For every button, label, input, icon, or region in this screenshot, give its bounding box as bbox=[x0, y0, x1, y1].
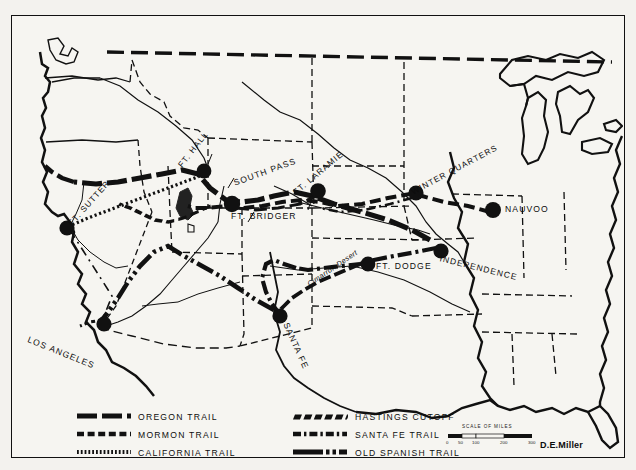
trail-sutter-la bbox=[70, 230, 112, 316]
legend-label-oregon-trail: OREGON TRAIL bbox=[138, 412, 218, 422]
legend-swatch-hastings-cutoff bbox=[292, 412, 348, 422]
leader-ft-hall bbox=[208, 154, 212, 164]
legend-swatch-santa-fe-trail bbox=[292, 430, 348, 438]
legend-swatch-mormon-trail bbox=[76, 430, 132, 438]
dot-santa-fe bbox=[272, 308, 287, 323]
dot-ft-bridger bbox=[224, 196, 240, 212]
map-page: FT. HALL SOUTH PASS FT. LARAMIE FT. BRID… bbox=[0, 0, 636, 470]
scale-tick-50: 50 bbox=[458, 440, 463, 445]
dot-los-angeles bbox=[96, 316, 111, 331]
legend-label-mormon-trail: MORMON TRAIL bbox=[138, 430, 220, 440]
scale-tick-100: 100 bbox=[472, 440, 479, 445]
dot-ft-dodge bbox=[361, 257, 376, 272]
label-ft-dodge: FT. DODGE bbox=[376, 261, 432, 271]
trail-oregon-west bbox=[45, 166, 74, 182]
trail-old-spanish bbox=[102, 246, 274, 320]
legend-label-santa-fe-trail: SANTA FE TRAIL bbox=[355, 430, 440, 440]
map-frame: FT. HALL SOUTH PASS FT. LARAMIE FT. BRID… bbox=[11, 15, 625, 458]
dot-ft-hall bbox=[197, 164, 212, 179]
legend-swatch-old-spanish-trail bbox=[292, 448, 348, 456]
author-signature: D.E.Miller bbox=[540, 440, 583, 450]
trails-overlay bbox=[12, 16, 623, 456]
scale-tick-0: 0 bbox=[446, 440, 448, 445]
legend-label-california-trail: CALIFORNIA TRAIL bbox=[138, 448, 236, 458]
dot-ft-laramie bbox=[310, 183, 326, 199]
legend-label-old-spanish-trail: OLD SPANISH TRAIL bbox=[355, 448, 460, 458]
scale-tick-200: 200 bbox=[500, 440, 507, 445]
legend-swatch-oregon-trail bbox=[76, 412, 132, 420]
scale-tick-300: 300 bbox=[528, 440, 535, 445]
city-dots bbox=[59, 164, 501, 332]
legend-label-hastings-cutoff: HASTINGS CUTOFF bbox=[355, 412, 455, 422]
dot-nauvoo bbox=[485, 202, 501, 218]
label-nauvoo: NAUVOO bbox=[505, 204, 549, 214]
label-ft-bridger: FT. BRIDGER bbox=[231, 211, 297, 221]
legend-swatch-california-trail bbox=[76, 448, 132, 456]
scale-title: SCALE OF MILES bbox=[462, 424, 512, 429]
